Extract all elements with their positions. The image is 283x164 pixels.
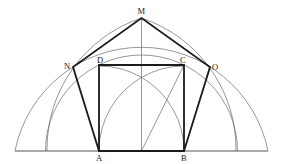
label-b: B [181, 153, 187, 163]
label-o: O [212, 62, 218, 72]
label-n: N [64, 61, 70, 71]
diagram-canvas: M N D C O A B [0, 0, 283, 164]
label-c: C [180, 55, 186, 65]
geometry-diagram: M N D C O A B [0, 0, 283, 164]
arc-center-a-large [142, 18, 237, 151]
label-a: A [96, 153, 103, 163]
label-m: M [138, 6, 146, 16]
label-d: D [97, 55, 103, 65]
arc-center-b-large [47, 18, 142, 151]
diagonal-mid-to-c [142, 65, 185, 151]
